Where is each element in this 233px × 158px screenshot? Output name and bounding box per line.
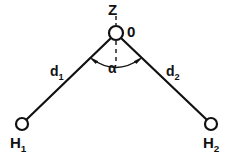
bond-d2-label-subscript: 2 (175, 72, 180, 82)
bond-line-d2 (122, 39, 206, 119)
hydrogen-atom-2-label-subscript: 2 (214, 143, 220, 154)
hydrogen-atom-2-circle (205, 118, 217, 130)
hydrogen-atom-1-circle (16, 118, 28, 130)
bond-d1-label: d1 (50, 64, 64, 82)
hydrogen-atom-1-label: H1 (10, 135, 26, 154)
hydrogen-atom-1-label-subscript: 1 (21, 143, 27, 154)
hydrogen-atom-2-label-base: H (203, 134, 214, 151)
z-axis-label: Z (108, 2, 118, 17)
oxygen-atom-circle (109, 26, 123, 40)
angle-arc-right-arrowhead-icon (134, 58, 142, 64)
bond-d2-label-base: d (166, 63, 175, 79)
bond-d1-label-base: d (50, 63, 59, 79)
oxygen-atom-label: 0 (127, 24, 135, 39)
bond-d2-label: d2 (166, 64, 180, 82)
angle-arc-left-arrowhead-icon (90, 58, 98, 64)
diagram-canvas (0, 0, 233, 158)
bond-d1-label-subscript: 1 (59, 72, 64, 82)
bond-line-d1 (27, 39, 110, 119)
bond-angle-label: α (108, 61, 117, 75)
hydrogen-atom-2-label: H2 (203, 135, 219, 154)
molecular-geometry-diagram: Z 0 α d1 d2 H1 H2 (0, 0, 233, 158)
hydrogen-atom-1-label-base: H (10, 134, 21, 151)
